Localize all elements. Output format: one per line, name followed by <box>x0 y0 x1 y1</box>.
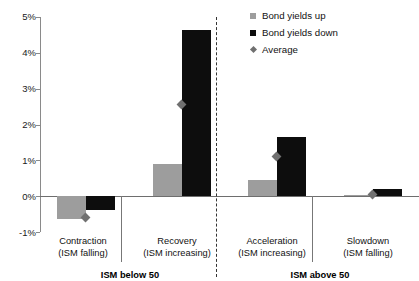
group-label-ism-above-50: ISM above 50 <box>224 270 416 280</box>
category-line1: Slowdown <box>320 236 416 248</box>
bar-acceleration-bond-yields-down <box>277 137 306 196</box>
bar-recovery-bond-yields-up <box>153 164 182 196</box>
y-tick-label-1: 1% <box>22 156 36 166</box>
legend-swatch-square-gray-icon <box>250 13 256 19</box>
legend-label: Bond yields down <box>262 27 338 38</box>
x-axis-category-labels: Contraction (ISM falling) Recovery (ISM … <box>40 236 419 281</box>
y-tick-3 <box>36 89 40 90</box>
y-tick-0 <box>36 196 40 197</box>
avg-marker-contraction <box>81 213 91 223</box>
y-tick-label-neg1: -1% <box>19 228 36 238</box>
legend-label: Average <box>262 44 298 55</box>
category-line2: (ISM falling) <box>320 248 416 260</box>
y-tick-label-2: 2% <box>22 120 36 130</box>
group-label-ism-below-50: ISM below 50 <box>35 270 225 280</box>
y-tick-label-0: 0% <box>22 192 36 202</box>
y-tick-2 <box>36 125 40 126</box>
bar-acceleration-bond-yields-up <box>248 180 277 196</box>
category-line1: Contraction <box>35 236 131 248</box>
bar-recovery-bond-yields-down <box>182 30 211 196</box>
bar-slowdown-bond-yields-down <box>373 189 402 196</box>
legend-label: Bond yields up <box>262 10 326 21</box>
y-tick-5 <box>36 17 40 18</box>
y-tick-label-5: 5% <box>22 12 36 22</box>
category-label-recovery: Recovery (ISM increasing) <box>129 236 225 259</box>
y-tick-label-4: 4% <box>22 48 36 58</box>
legend-swatch-square-black-icon <box>250 30 256 36</box>
y-tick-label-3: 3% <box>22 84 36 94</box>
category-line1: Recovery <box>129 236 225 248</box>
category-line2: (ISM increasing) <box>224 248 320 260</box>
category-line1: Acceleration <box>224 236 320 248</box>
category-label-slowdown: Slowdown (ISM falling) <box>320 236 416 259</box>
plot-area <box>40 17 419 232</box>
category-line2: (ISM increasing) <box>129 248 225 260</box>
category-label-contraction: Contraction (ISM falling) <box>35 236 131 259</box>
y-tick-1 <box>36 160 40 161</box>
category-label-acceleration: Acceleration (ISM increasing) <box>224 236 320 259</box>
y-tick-neg1 <box>36 232 40 233</box>
y-axis-line <box>40 17 41 232</box>
bar-contraction-bond-yields-down <box>86 196 115 210</box>
y-tick-4 <box>36 53 40 54</box>
category-line2: (ISM falling) <box>35 248 131 260</box>
bond-yield-ism-bar-chart: 5% 4% 3% 2% 1% 0% -1% <box>0 0 419 281</box>
